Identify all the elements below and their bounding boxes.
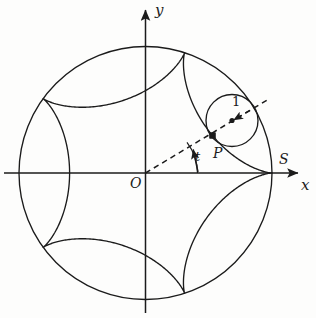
- radius-arrow: [234, 110, 251, 120]
- radius-one-label: 1: [232, 95, 240, 108]
- point-s-label: S: [279, 152, 289, 166]
- x-axis-label: x: [301, 178, 309, 193]
- origin-label: O: [130, 176, 141, 190]
- diagram-canvas: [0, 0, 316, 318]
- rolling-circle-center-dot: [229, 118, 234, 123]
- angle-t-label: t: [195, 150, 200, 163]
- y-axis-label: y: [155, 3, 163, 18]
- point-p-marker: [209, 132, 216, 139]
- hypocycloid-figure: y x O S P t 1: [0, 0, 316, 318]
- point-p-label: P: [213, 146, 222, 160]
